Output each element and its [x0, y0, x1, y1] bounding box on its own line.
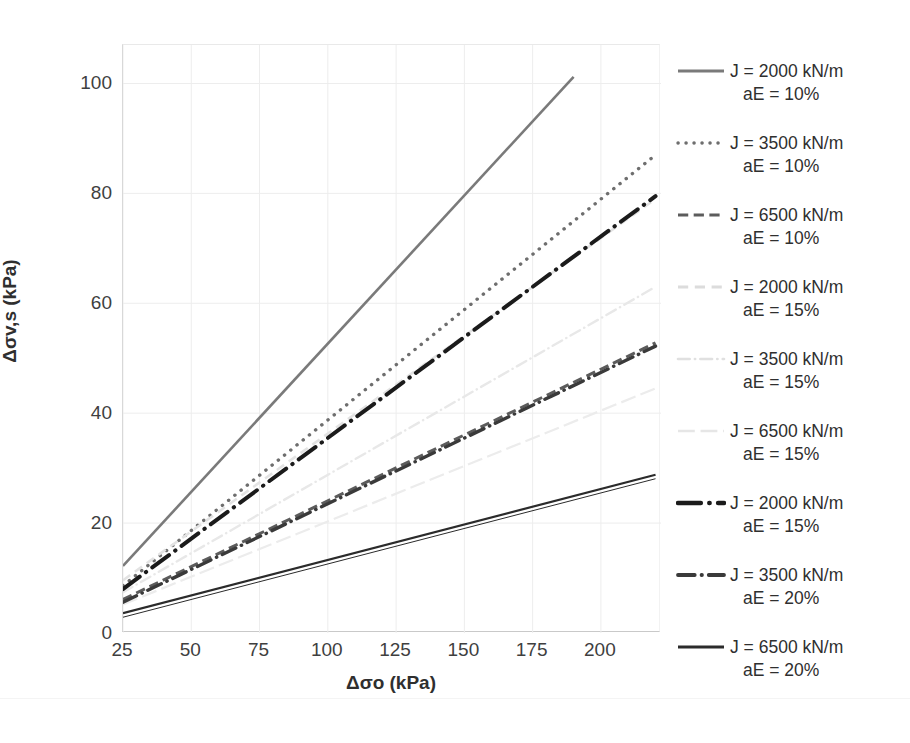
dash-dot-light-line-icon: [676, 348, 730, 370]
x-tick-label: 25: [92, 640, 152, 659]
legend-entry[interactable]: J = 2000 kN/maE = 10%: [676, 60, 904, 112]
legend-label-line1: J = 3500 kN/m: [730, 133, 843, 153]
dashed-gray-line-icon: [676, 204, 730, 226]
legend-label: J = 3500 kN/maE = 10%: [730, 132, 843, 178]
series-line-2: [123, 155, 656, 586]
series-line-9: [123, 475, 656, 613]
plot-area: [122, 44, 660, 632]
series-line-9-shadow: [123, 479, 656, 617]
legend-label-line1: J = 6500 kN/m: [730, 205, 843, 225]
legend-label-line1: J = 3500 kN/m: [730, 349, 843, 369]
legend-entry[interactable]: J = 3500 kN/maE = 20%: [676, 564, 904, 616]
y-tick-label: 60: [56, 293, 112, 312]
legend-label: J = 3500 kN/maE = 15%: [730, 348, 843, 394]
y-tick-label: 20: [56, 513, 112, 532]
legend-label-line2: aE = 10%: [730, 155, 843, 178]
legend-entry[interactable]: J = 6500 kN/maE = 15%: [676, 420, 904, 472]
x-tick-label: 175: [502, 640, 562, 659]
dashed-light-line-icon: [676, 276, 730, 298]
long-dash-light-line-icon: [676, 420, 730, 442]
x-tick-label: 150: [433, 640, 493, 659]
legend-label-line2: aE = 15%: [730, 515, 843, 538]
x-tick-label: 100: [297, 640, 357, 659]
x-tick-label: 200: [570, 640, 630, 659]
legend-entry[interactable]: J = 2000 kN/maE = 15%: [676, 276, 904, 328]
solid-dark-line-icon: [676, 636, 730, 658]
x-axis-title: Δσo (kPa): [122, 672, 660, 694]
x-tick-label: 125: [365, 640, 425, 659]
solid-gray-line-icon: [676, 60, 730, 82]
legend-label: J = 6500 kN/maE = 15%: [730, 420, 843, 466]
legend-entry[interactable]: J = 2000 kN/maE = 15%: [676, 492, 904, 544]
x-axis-tick-labels: 255075100125150175200: [122, 640, 660, 670]
legend-entry[interactable]: J = 6500 kN/maE = 10%: [676, 204, 904, 256]
legend-label: J = 2000 kN/maE = 15%: [730, 276, 843, 322]
legend-label: J = 6500 kN/maE = 20%: [730, 636, 843, 682]
legend-entry[interactable]: J = 3500 kN/maE = 15%: [676, 348, 904, 400]
dash-dot-black-line-icon: [676, 492, 730, 514]
legend-label-line2: aE = 15%: [730, 371, 843, 394]
legend-label-line1: J = 2000 kN/m: [730, 277, 843, 297]
y-tick-label: 100: [56, 73, 112, 92]
y-tick-label: 40: [56, 403, 112, 422]
legend-label-line1: J = 6500 kN/m: [730, 637, 843, 657]
legend-label-line1: J = 6500 kN/m: [730, 421, 843, 441]
series-line-3: [123, 343, 656, 600]
legend-label-line2: aE = 10%: [730, 83, 843, 106]
legend-label: J = 2000 kN/maE = 15%: [730, 492, 843, 538]
data-series-layer: [123, 45, 661, 633]
y-tick-label: 80: [56, 183, 112, 202]
series-line-7: [123, 196, 656, 589]
legend-label-line2: aE = 15%: [730, 443, 843, 466]
y-axis-title: Δσv,s (kPa): [0, 259, 21, 362]
legend-label: J = 6500 kN/maE = 10%: [730, 204, 843, 250]
page-divider: [0, 698, 910, 699]
chart-legend: J = 2000 kN/maE = 10%J = 3500 kN/maE = 1…: [676, 60, 904, 710]
legend-label-line1: J = 3500 kN/m: [730, 565, 843, 585]
series-line-8: [123, 346, 656, 602]
x-tick-label: 75: [229, 640, 289, 659]
dotted-gray-line-icon: [676, 132, 730, 154]
y-axis-tick-labels: 020406080100: [44, 44, 112, 632]
legend-label-line2: aE = 15%: [730, 299, 843, 322]
legend-label-line1: J = 2000 kN/m: [730, 493, 843, 513]
legend-label: J = 3500 kN/maE = 20%: [730, 564, 843, 610]
legend-label-line2: aE = 20%: [730, 659, 843, 682]
figure-chart-container: 020406080100 255075100125150175200 Δσv,s…: [0, 0, 910, 743]
x-tick-label: 50: [160, 640, 220, 659]
legend-entry[interactable]: J = 3500 kN/maE = 10%: [676, 132, 904, 184]
legend-entry[interactable]: J = 6500 kN/maE = 20%: [676, 636, 904, 688]
series-line-5: [123, 287, 656, 593]
dash-dot-dark-line-icon: [676, 564, 730, 586]
legend-label-line2: aE = 10%: [730, 227, 843, 250]
legend-label: J = 2000 kN/maE = 10%: [730, 60, 843, 106]
legend-label-line2: aE = 20%: [730, 587, 843, 610]
legend-label-line1: J = 2000 kN/m: [730, 61, 843, 81]
